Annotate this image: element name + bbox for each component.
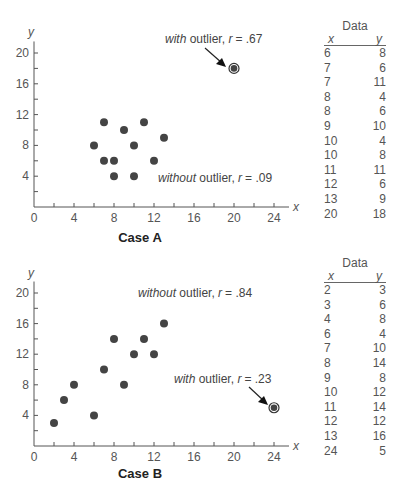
data-point — [130, 350, 138, 358]
cell-x: 13 — [324, 192, 352, 207]
x-axis-label: x — [292, 200, 300, 214]
table-title: Data — [324, 19, 386, 33]
table-row: 139 — [324, 192, 386, 207]
table-row: 126 — [324, 177, 386, 192]
cell-x: 11 — [324, 163, 352, 178]
table-row: 2018 — [324, 207, 386, 222]
data-point — [90, 141, 98, 149]
table-row: 1114 — [324, 400, 386, 415]
y-tick-label: 12 — [16, 108, 30, 122]
table-row: 104 — [324, 134, 386, 149]
table-row: 910 — [324, 119, 386, 134]
cell-y: 11 — [358, 163, 386, 178]
cell-y: 8 — [358, 312, 386, 327]
cell-y: 14 — [358, 400, 386, 415]
data-point — [100, 157, 108, 165]
data-point — [120, 381, 128, 389]
cell-y: 14 — [358, 356, 386, 371]
data-point — [60, 396, 68, 404]
cell-x: 7 — [324, 341, 352, 356]
y-tick-label: 4 — [22, 169, 29, 183]
annotation-without-outlier-a: without outlier, r= .09 — [158, 171, 272, 185]
cell-x: 3 — [324, 298, 352, 313]
x-tick-label: 0 — [31, 211, 38, 225]
x-tick-label: 4 — [71, 450, 78, 464]
cell-x: 10 — [324, 385, 352, 400]
x-tick-label: 4 — [71, 211, 78, 225]
x-tick-label: 12 — [147, 450, 161, 464]
y-tick-label: 12 — [16, 347, 30, 361]
cell-x: 24 — [324, 444, 352, 459]
col-x: x — [328, 33, 334, 45]
x-tick-label: 20 — [227, 211, 241, 225]
data-point — [160, 134, 168, 142]
y-tick-label: 8 — [22, 138, 29, 152]
cell-y: 4 — [358, 327, 386, 342]
table-row: 64 — [324, 327, 386, 342]
col-x: x — [328, 270, 334, 282]
cell-x: 4 — [324, 312, 352, 327]
x-tick-label: 0 — [31, 450, 38, 464]
arrow-icon — [249, 387, 268, 405]
cell-x: 9 — [324, 371, 352, 386]
cell-x: 12 — [324, 414, 352, 429]
table-row: 1012 — [324, 385, 386, 400]
cell-y: 10 — [358, 119, 386, 134]
cell-y: 8 — [358, 148, 386, 163]
x-tick-label: 12 — [147, 211, 161, 225]
x-tick-label: 20 — [227, 450, 241, 464]
cell-y: 4 — [358, 134, 386, 149]
x-tick-label: 16 — [187, 450, 201, 464]
y-tick-label: 16 — [16, 77, 30, 91]
data-point — [130, 141, 138, 149]
cell-y: 11 — [358, 75, 386, 90]
data-table-case-a: Data xy 68767118486910104108111112613920… — [324, 19, 386, 221]
y-tick-label: 8 — [22, 378, 29, 392]
scatter-case-a: 0481216202448121620xy — [16, 25, 300, 225]
cell-y: 10 — [358, 341, 386, 356]
data-point — [90, 411, 98, 419]
cell-x: 9 — [324, 119, 352, 134]
data-point — [110, 157, 118, 165]
y-tick-label: 16 — [16, 317, 30, 331]
x-tick-label: 16 — [187, 211, 201, 225]
data-point — [50, 419, 58, 427]
cell-y: 12 — [358, 414, 386, 429]
cell-y: 18 — [358, 207, 386, 222]
col-y: y — [376, 270, 382, 282]
table-row: 710 — [324, 341, 386, 356]
table-row: 48 — [324, 312, 386, 327]
cell-x: 6 — [324, 46, 352, 61]
case-a-title: Case A — [118, 230, 162, 245]
cell-y: 8 — [358, 371, 386, 386]
table-row: 84 — [324, 90, 386, 105]
data-table-case-b: Data xy 23364864710814981012111412121316… — [324, 256, 386, 458]
y-tick-label: 20 — [16, 46, 30, 60]
cell-x: 13 — [324, 429, 352, 444]
data-point — [100, 366, 108, 374]
cell-x: 6 — [324, 327, 352, 342]
data-point — [150, 350, 158, 358]
table-row: 108 — [324, 148, 386, 163]
cell-y: 16 — [358, 429, 386, 444]
y-axis-label: y — [27, 25, 35, 39]
cell-x: 2 — [324, 283, 352, 298]
cell-x: 10 — [324, 148, 352, 163]
table-row: 711 — [324, 75, 386, 90]
cell-y: 6 — [358, 177, 386, 192]
cell-x: 8 — [324, 104, 352, 119]
data-point — [160, 320, 168, 328]
data-point — [100, 118, 108, 126]
table-row: 36 — [324, 298, 386, 313]
annotation-without-outlier-b: without outlier, r= .84 — [138, 286, 252, 300]
cell-y: 6 — [358, 61, 386, 76]
table-row: 68 — [324, 46, 386, 61]
cell-x: 12 — [324, 177, 352, 192]
cell-y: 12 — [358, 385, 386, 400]
data-point — [150, 157, 158, 165]
cell-x: 20 — [324, 207, 352, 222]
table-row: 86 — [324, 104, 386, 119]
cell-y: 6 — [358, 298, 386, 313]
data-point — [110, 172, 118, 180]
y-tick-label: 20 — [16, 286, 30, 300]
